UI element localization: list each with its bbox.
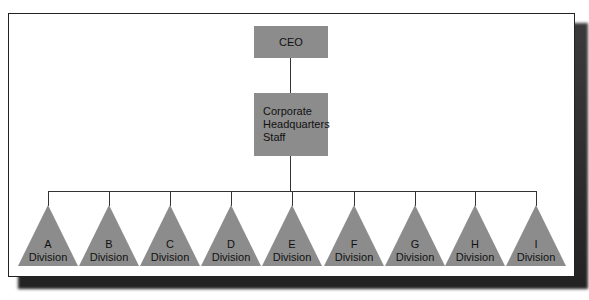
division-letter: H bbox=[444, 238, 506, 251]
division-label: Division bbox=[384, 251, 446, 264]
division-i: I Division bbox=[505, 238, 567, 264]
division-label: Division bbox=[261, 251, 323, 264]
division-label: Division bbox=[444, 251, 506, 264]
division-b: B Division bbox=[78, 238, 140, 264]
division-letter: G bbox=[384, 238, 446, 251]
division-label: Division bbox=[78, 251, 140, 264]
division-g: G Division bbox=[384, 238, 446, 264]
division-letter: E bbox=[261, 238, 323, 251]
division-h: H Division bbox=[444, 238, 506, 264]
division-label: Division bbox=[17, 251, 79, 264]
division-letter: D bbox=[200, 238, 262, 251]
division-f: F Division bbox=[323, 238, 385, 264]
division-c: C Division bbox=[139, 238, 201, 264]
division-label: Division bbox=[505, 251, 567, 264]
division-letter: C bbox=[139, 238, 201, 251]
division-d: D Division bbox=[200, 238, 262, 264]
division-letter: F bbox=[323, 238, 385, 251]
division-e: E Division bbox=[261, 238, 323, 264]
division-letter: I bbox=[505, 238, 567, 251]
division-label: Division bbox=[200, 251, 262, 264]
division-letter: A bbox=[17, 238, 79, 251]
division-a: A Division bbox=[17, 238, 79, 264]
division-label: Division bbox=[139, 251, 201, 264]
division-letter: B bbox=[78, 238, 140, 251]
division-label: Division bbox=[323, 251, 385, 264]
